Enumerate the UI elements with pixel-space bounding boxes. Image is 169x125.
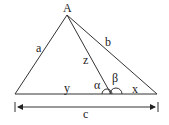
cevian-z <box>67 15 111 94</box>
angle-label-alpha: α <box>94 78 101 92</box>
angle-label-beta: β <box>112 71 118 85</box>
dimension-label-c: c <box>83 107 88 121</box>
segment-label-x: x <box>132 82 138 96</box>
side-label-b: b <box>105 35 111 49</box>
segment-label-y: y <box>64 81 70 95</box>
cevian-label-z: z <box>83 53 88 67</box>
side-label-a: a <box>36 41 42 55</box>
vertex-label-a: A <box>63 1 72 15</box>
triangle-diagram: A a b z y x α β c <box>0 0 169 125</box>
